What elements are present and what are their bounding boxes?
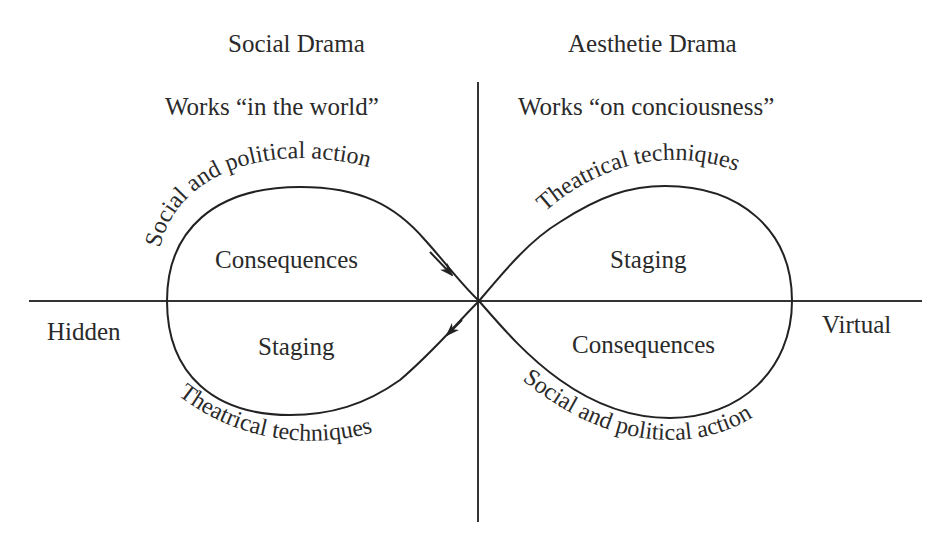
left-loop-upper-arc bbox=[167, 187, 479, 301]
arrow-into-center bbox=[430, 252, 452, 275]
infinity-diagram: Social Drama Works “in the world” Aesthe… bbox=[0, 0, 950, 547]
left-subtitle: Works “in the world” bbox=[165, 93, 379, 120]
arrow-out-of-center bbox=[447, 320, 462, 335]
right-upper-arc-label: Theatrical techniques bbox=[531, 139, 743, 216]
left-consequences-label: Consequences bbox=[215, 246, 358, 273]
left-title: Social Drama bbox=[228, 30, 365, 57]
hidden-label: Hidden bbox=[47, 318, 121, 345]
right-title: Aesthetie Drama bbox=[568, 30, 737, 57]
right-loop-upper-arc bbox=[479, 186, 792, 301]
left-upper-arc-label: Social and political action bbox=[140, 137, 375, 249]
left-staging-label: Staging bbox=[258, 333, 335, 360]
right-consequences-label: Consequences bbox=[572, 331, 715, 358]
right-subtitle: Works “on conciousness” bbox=[518, 93, 774, 120]
virtual-label: Virtual bbox=[822, 311, 891, 338]
right-staging-label: Staging bbox=[610, 246, 687, 273]
right-loop-lower-arc bbox=[479, 301, 792, 418]
